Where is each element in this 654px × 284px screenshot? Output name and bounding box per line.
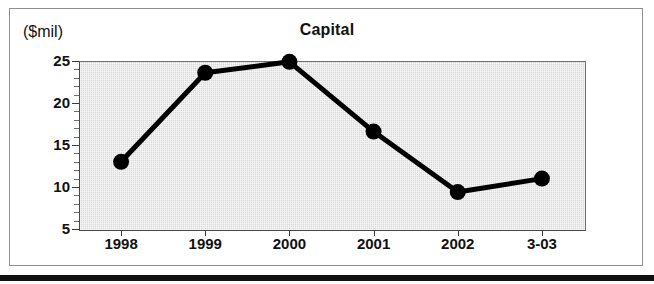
scanned-figure-page: ($mil) Capital 510152025 199819992000200… <box>0 0 654 284</box>
x-axis-tick-label: 2000 <box>254 235 324 252</box>
x-axis-tick-label: 1998 <box>86 235 156 252</box>
data-point-marker <box>366 124 382 140</box>
figure-frame: ($mil) Capital 510152025 199819992000200… <box>9 8 643 266</box>
y-axis-tick-label: 5 <box>16 220 70 237</box>
y-axis-major-tick <box>72 103 79 104</box>
x-axis-tick-label: 2001 <box>339 235 409 252</box>
data-point-marker <box>534 171 550 187</box>
x-axis-tick-label: 3-03 <box>507 235 577 252</box>
y-axis-tick-label: 10 <box>16 178 70 195</box>
data-point-marker <box>450 184 466 200</box>
data-series-capital <box>79 61 584 229</box>
series-line <box>121 62 542 192</box>
x-axis-tick-label: 1999 <box>170 235 240 252</box>
capital-line-chart: ($mil) Capital 510152025 199819992000200… <box>10 9 644 267</box>
data-point-marker <box>113 154 129 170</box>
y-axis-tick-label: 20 <box>16 94 70 111</box>
y-axis-major-tick <box>72 187 79 188</box>
data-point-marker <box>197 65 213 81</box>
y-axis-major-tick <box>72 229 79 230</box>
y-axis-tick-label: 15 <box>16 136 70 153</box>
data-point-marker <box>281 54 297 70</box>
y-axis-tick-label: 25 <box>16 52 70 69</box>
y-axis-major-tick <box>72 61 79 62</box>
y-axis-major-tick <box>72 145 79 146</box>
chart-title: Capital <box>10 21 644 39</box>
page-bottom-rule <box>0 275 654 281</box>
series-markers <box>113 54 550 200</box>
x-axis-tick-label: 2002 <box>423 235 493 252</box>
